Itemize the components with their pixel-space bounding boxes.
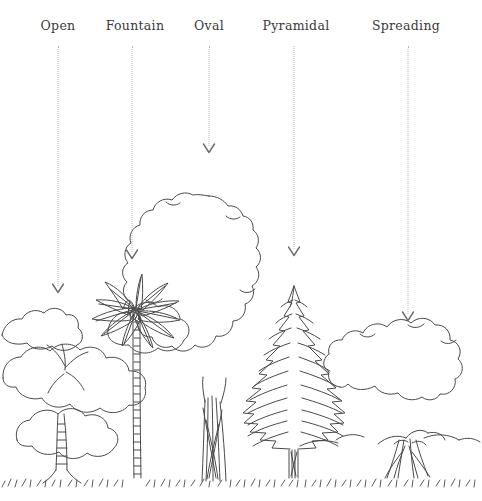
arrowhead-fountain (126, 249, 139, 260)
tree-illustrations (0, 0, 482, 501)
label-fountain: Fountain (106, 19, 165, 33)
leader-line-pyramidal (294, 46, 295, 249)
pyramidal-form-tree (243, 286, 345, 478)
label-spreading: Spreading (372, 19, 440, 33)
arrowhead-pyramidal (288, 246, 301, 257)
label-pyramidal: Pyramidal (263, 19, 330, 33)
leader-line-open (58, 46, 59, 286)
spreading-form-tree (300, 318, 480, 478)
arrowhead-spreading (402, 311, 415, 322)
open-form-tree (2, 302, 189, 483)
grass-ground-line (2, 479, 475, 487)
label-oval: Oval (194, 19, 224, 33)
fountain-form-tree (92, 274, 180, 478)
leader-line-spreading (408, 46, 409, 314)
leader-line-fountain (132, 46, 133, 252)
arrowhead-open (52, 283, 65, 294)
oval-form-tree (123, 193, 261, 481)
tree-form-diagram: Open Fountain Oval Pyramidal Spreading (0, 0, 482, 501)
arrowhead-oval (203, 143, 216, 154)
leader-line-oval (209, 46, 210, 146)
label-open: Open (41, 19, 76, 33)
